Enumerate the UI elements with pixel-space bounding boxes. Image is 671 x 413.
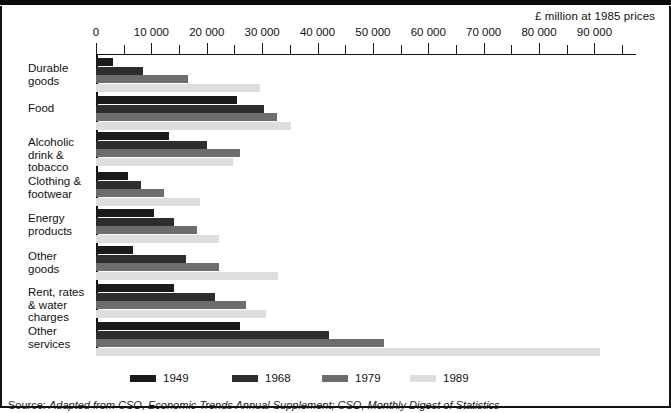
x-axis-ticks (96, 42, 640, 54)
bar-group (96, 322, 636, 356)
x-axis-tick (401, 45, 402, 54)
x-axis-tick (318, 43, 319, 54)
category-label-line: services (28, 338, 90, 351)
category-label: Durablegoods (28, 62, 90, 87)
legend-label: 1968 (265, 372, 291, 384)
legend-label: 1989 (443, 372, 469, 384)
x-axis-tick-label: 80 000 (521, 26, 556, 38)
bar (96, 122, 291, 130)
bars-area (96, 54, 636, 351)
bar-group (96, 58, 636, 92)
category-label-line: & water (28, 299, 90, 312)
x-axis-tick (207, 43, 208, 54)
bar (96, 113, 277, 121)
x-axis-tick (511, 45, 512, 54)
bar (96, 141, 207, 149)
bar-group (96, 246, 636, 280)
bar-group (96, 284, 636, 318)
bar (96, 181, 141, 189)
bar (96, 246, 133, 254)
bar-group (96, 172, 636, 206)
x-axis-tick-label: 20 000 (189, 26, 224, 38)
bar (96, 235, 219, 243)
bottom-border-rule (0, 406, 671, 408)
category-label-line: Clothing & (28, 175, 90, 188)
category-label: Energyproducts (28, 212, 90, 237)
chart-legend: 1949196819791989 (0, 372, 671, 388)
x-axis-tick-label: 90 000 (577, 26, 612, 38)
x-axis-tick-label: 40 000 (300, 26, 335, 38)
source-text: Adapted from CSO, Economic Trends Annual… (49, 399, 500, 411)
bar (96, 218, 174, 226)
legend-label: 1979 (355, 372, 381, 384)
category-label-line: Energy (28, 212, 90, 225)
bar (96, 172, 128, 180)
x-axis-tick-label: 70 000 (466, 26, 501, 38)
x-axis-tick (179, 45, 180, 54)
category-label: Alcoholicdrink &tobacco (28, 136, 90, 174)
bar (96, 67, 143, 75)
bar (96, 75, 188, 83)
x-axis-tick (290, 45, 291, 54)
category-label-line: drink & (28, 149, 90, 162)
bar (96, 339, 384, 347)
bar (96, 58, 113, 66)
bar (96, 198, 200, 206)
bar (96, 226, 197, 234)
legend-swatch (130, 375, 156, 382)
x-axis-tick (539, 43, 540, 54)
x-axis-tick-label: 10 000 (134, 26, 169, 38)
bar (96, 149, 240, 157)
category-label-line: footwear (28, 188, 90, 201)
category-label: Otherservices (28, 325, 90, 350)
bar (96, 301, 246, 309)
category-label: Rent, rates& watercharges (28, 286, 90, 324)
category-label-line: Food (28, 102, 90, 115)
x-axis-tick-label: 0 (93, 26, 99, 38)
bar (96, 132, 169, 140)
legend-swatch (410, 375, 436, 382)
bar (96, 293, 215, 301)
legend-label: 1949 (163, 372, 189, 384)
bar (96, 84, 260, 92)
bar (96, 96, 237, 104)
bar (96, 348, 600, 356)
x-axis-tick (151, 43, 152, 54)
bar (96, 322, 240, 330)
x-axis-tick (96, 43, 97, 54)
bar (96, 272, 278, 280)
category-label-line: goods (28, 75, 90, 88)
legend-swatch (232, 375, 258, 382)
category-label: Food (28, 102, 90, 115)
category-label-line: charges (28, 311, 90, 324)
x-axis-tick (622, 45, 623, 54)
source-footer-text: Source: Adapted from CSO, Economic Trend… (8, 399, 500, 411)
bar (96, 263, 219, 271)
bar (96, 158, 233, 166)
bar (96, 310, 266, 318)
bar-group (96, 132, 636, 166)
legend-swatch (322, 375, 348, 382)
x-axis-tick (567, 45, 568, 54)
source-label: Source: (8, 399, 46, 411)
bar (96, 284, 174, 292)
category-label-line: products (28, 225, 90, 238)
x-axis-tick (234, 45, 235, 54)
bar (96, 331, 329, 339)
category-label: Othergoods (28, 250, 90, 275)
x-axis-tick-labels: 010 00020 00030 00040 00050 00060 00070 … (0, 26, 671, 42)
category-labels: DurablegoodsFoodAlcoholicdrink &tobaccoC… (0, 54, 94, 354)
x-axis-tick (428, 43, 429, 54)
x-axis-tick (345, 45, 346, 54)
category-label-line: goods (28, 263, 90, 276)
bar (96, 209, 154, 217)
category-label-line: Alcoholic (28, 136, 90, 149)
x-axis-tick-label: 30 000 (245, 26, 280, 38)
category-label-line: Rent, rates (28, 286, 90, 299)
axis-units-caption: £ million at 1985 prices (535, 10, 655, 22)
top-border-gap (0, 5, 671, 6)
x-axis-tick (594, 43, 595, 54)
bar (96, 189, 164, 197)
bar (96, 255, 186, 263)
